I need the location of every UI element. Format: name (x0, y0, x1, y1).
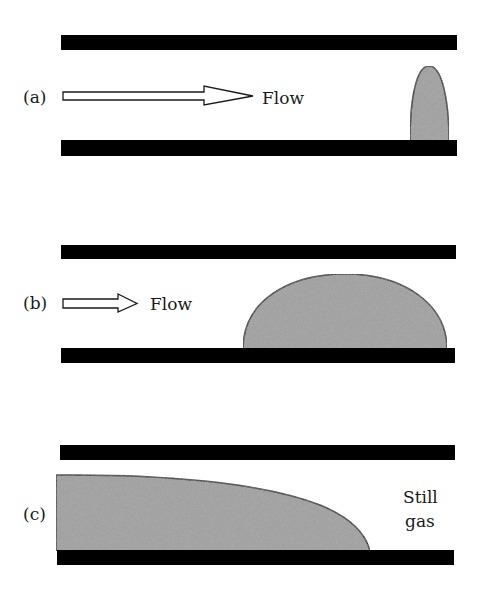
panel-label: (a) (23, 87, 46, 107)
droplet-tall (410, 66, 449, 141)
droplet-flow-diagram: (a) Flow (b) Flow (c) Still gas (0, 0, 480, 591)
flow-arrow-icon (63, 294, 137, 312)
channel-top-wall (61, 245, 456, 259)
panel-a: (a) Flow (23, 35, 457, 156)
liquid-film (56, 475, 370, 551)
channel-bottom-wall (61, 348, 455, 363)
flow-label: Flow (262, 88, 304, 108)
panel-b: (b) Flow (23, 245, 456, 363)
still-gas-label-line1: Still (403, 487, 438, 507)
channel-top-wall (60, 445, 455, 460)
droplet-dome (243, 274, 447, 349)
channel-bottom-wall (57, 550, 454, 565)
panel-c: (c) Still gas (23, 445, 455, 565)
flow-label: Flow (150, 294, 192, 314)
still-gas-label-line2: gas (405, 511, 435, 531)
panel-label: (c) (23, 504, 46, 524)
channel-bottom-wall (61, 140, 457, 156)
channel-top-wall (61, 35, 457, 50)
panel-label: (b) (23, 293, 47, 313)
flow-arrow-icon (63, 86, 253, 105)
